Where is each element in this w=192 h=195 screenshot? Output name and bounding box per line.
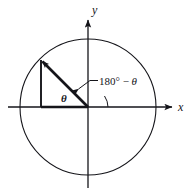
supplement-angle-label: 180° − θ bbox=[99, 75, 138, 87]
y-axis-label: y bbox=[91, 3, 98, 17]
supplement-theta-symbol: θ bbox=[132, 75, 138, 87]
diagram-canvas: θ 180° − θ x y bbox=[0, 0, 192, 195]
supplement-angle-arc bbox=[105, 96, 109, 107]
unit-circle-figure: θ 180° − θ x y bbox=[0, 0, 192, 195]
x-axis-label: x bbox=[177, 100, 184, 114]
supplement-prefix: 180° − bbox=[99, 75, 132, 87]
theta-label: θ bbox=[61, 92, 67, 104]
